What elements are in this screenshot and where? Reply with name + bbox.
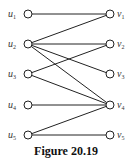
node-label-u1: u1	[8, 8, 16, 20]
node-v1	[106, 10, 114, 18]
node-label-u5: u5	[8, 129, 16, 141]
node-label-v2: v2	[117, 38, 124, 50]
node-v4	[106, 101, 114, 109]
edge-u2-v1	[28, 14, 110, 44]
node-u2	[24, 40, 32, 48]
node-v5	[106, 131, 114, 139]
node-label-u3: u3	[8, 68, 16, 80]
node-label-v4: v4	[117, 99, 124, 111]
node-u3	[24, 70, 32, 78]
edge-u3-v4	[28, 74, 110, 105]
edge-u5-v4	[28, 105, 110, 135]
node-u1	[24, 10, 32, 18]
node-label-v1: v1	[117, 8, 124, 20]
figure-caption: Figure 20.19	[0, 144, 132, 159]
edges	[28, 14, 110, 135]
node-label-u4: u4	[8, 99, 16, 111]
node-u4	[24, 101, 32, 109]
node-label-u2: u2	[8, 38, 16, 50]
edge-u2-v4	[28, 44, 110, 105]
node-u5	[24, 131, 32, 139]
node-label-v5: v5	[117, 129, 124, 141]
bipartite-graph: u1u2u3u4u5v1v2v3v4v5	[0, 0, 132, 161]
node-label-v3: v3	[117, 68, 124, 80]
node-v3	[106, 70, 114, 78]
node-v2	[106, 40, 114, 48]
